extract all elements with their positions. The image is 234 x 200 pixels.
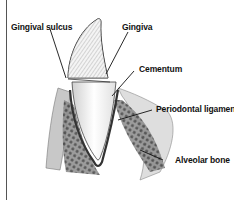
diagram-frame: Gingival sulcus Gingiva Cementum Periodo…: [0, 0, 234, 200]
label-cementum: Cementum: [139, 64, 182, 74]
label-gingiva: Gingiva: [122, 22, 152, 32]
label-alveolar-bone: Alveolar bone: [175, 155, 230, 165]
label-periodontal-ligament: Periodontal ligament: [156, 104, 234, 114]
label-gingival-sulcus: Gingival sulcus: [11, 22, 72, 32]
